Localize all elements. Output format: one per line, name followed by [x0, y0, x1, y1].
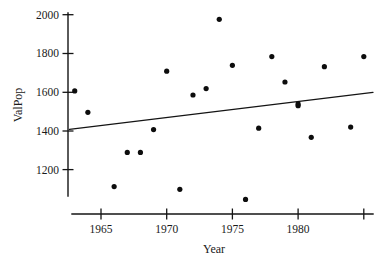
data-point	[296, 101, 301, 106]
data-point	[112, 184, 117, 189]
data-point	[164, 69, 169, 74]
data-point	[72, 88, 77, 93]
data-points-group	[72, 17, 366, 202]
y-axis-tick-labels: 2000 1800 1600 1400 1200	[36, 9, 59, 176]
trend-line	[69, 92, 373, 129]
data-point	[190, 92, 195, 97]
y-tick-label-2000: 2000	[36, 9, 59, 21]
y-tick-label-1800: 1800	[36, 47, 59, 59]
data-point	[256, 126, 261, 131]
x-tick-label-1965: 1965	[90, 223, 113, 235]
x-tick-label-1980: 1980	[287, 223, 310, 235]
x-axis: 1965 1970 1975 1980 Year	[72, 209, 373, 257]
data-point	[217, 17, 222, 22]
data-point	[243, 197, 248, 202]
data-point	[177, 187, 182, 192]
data-point	[204, 86, 209, 91]
y-tick-label-1200: 1200	[36, 164, 59, 176]
data-point	[85, 110, 90, 115]
data-point	[125, 150, 130, 155]
y-tick-label-1400: 1400	[36, 125, 59, 137]
data-point	[138, 150, 143, 155]
data-point	[348, 124, 353, 129]
data-point	[269, 54, 274, 59]
y-axis: 2000 1800 1600 1400 1200 ValPop	[11, 9, 74, 196]
plot-canvas: 2000 1800 1600 1400 1200 ValPop 1965 197…	[0, 0, 384, 257]
scatter-plot-figure: 2000 1800 1600 1400 1200 ValPop 1965 197…	[0, 0, 384, 257]
data-point	[282, 79, 287, 84]
x-tick-label-1970: 1970	[155, 223, 178, 235]
y-axis-title: ValPop	[11, 88, 25, 123]
data-point	[322, 64, 327, 69]
data-point	[309, 135, 314, 140]
data-point	[230, 63, 235, 68]
y-tick-label-1600: 1600	[36, 86, 59, 98]
data-point	[151, 127, 156, 132]
data-point	[361, 54, 366, 59]
x-axis-title: Year	[203, 242, 225, 256]
x-tick-label-1975: 1975	[221, 223, 244, 235]
x-axis-tick-labels: 1965 1970 1975 1980	[90, 223, 310, 235]
